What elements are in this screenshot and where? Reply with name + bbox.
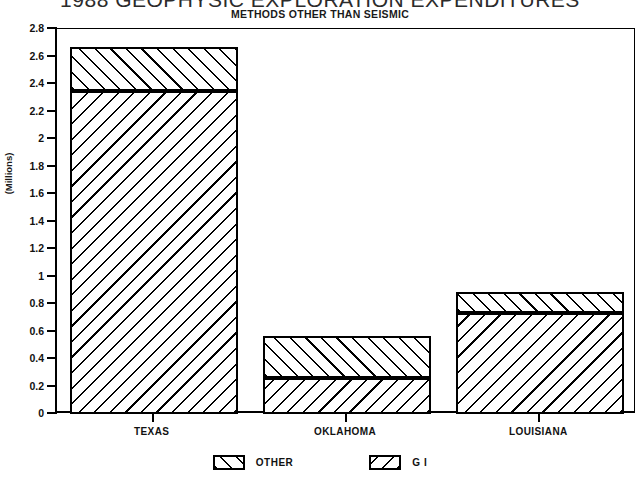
x-axis-label: TEXAS [134,426,169,437]
plot-area [55,28,635,413]
x-axis-tick [345,413,347,422]
legend-swatch-icon [369,455,401,470]
x-axis-tick [152,413,154,422]
bar-segment [70,47,238,91]
chart-container: 1988 GEOPHYSIC EXPLORATION EXPENDITURES … [0,0,640,485]
bar-segment [456,292,624,313]
y-axis-label: 1.6 [0,187,44,199]
legend-item[interactable]: OTHER [213,455,294,470]
bar-segment [456,313,624,414]
bar-segment [263,378,431,414]
y-axis-label: 1 [0,270,44,282]
y-axis-label: 1.4 [0,215,44,227]
legend-item[interactable]: G I [369,455,427,470]
legend-label: OTHER [256,457,294,468]
y-axis-label: 0.2 [0,380,44,392]
y-axis-label: 0.6 [0,325,44,337]
y-axis-label: 2.4 [0,77,44,89]
legend-swatch-icon [213,455,245,470]
y-axis-title: (Millions) [3,134,14,214]
chart-legend: OTHERG I [0,455,640,470]
y-axis-label: 2.8 [0,22,44,34]
y-axis-label: 0.4 [0,352,44,364]
x-axis-label: OKLAHOMA [314,426,376,437]
y-axis-label: 0.8 [0,297,44,309]
y-axis-label: 0 [0,407,44,419]
y-axis-label: 2.2 [0,105,44,117]
chart-subtitle: METHODS OTHER THAN SEISMIC [0,8,640,20]
y-axis-label: 1.2 [0,242,44,254]
y-axis-label: 2.6 [0,50,44,62]
y-axis-label: 2 [0,132,44,144]
legend-label: G I [412,457,427,468]
bar-segment [70,91,238,414]
bar-segment [263,336,431,378]
x-axis-label: LOUISIANA [509,426,568,437]
y-axis-label: 1.8 [0,160,44,172]
x-axis-tick [538,413,540,422]
